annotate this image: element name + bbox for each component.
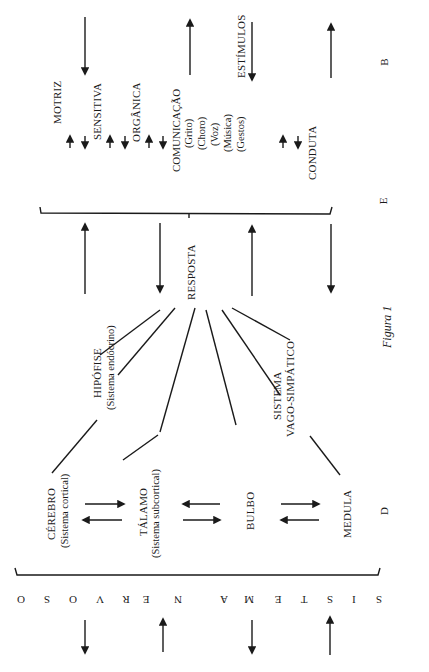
label-sensitiva: SENSITIVA	[92, 83, 103, 140]
title-letter: A	[218, 594, 230, 606]
title-letter: O	[67, 594, 79, 606]
title-letter: M	[243, 594, 255, 606]
label-motriz: MOTRIZ	[52, 81, 63, 124]
diagram-lines	[0, 0, 429, 672]
side-label-e: E	[377, 198, 389, 205]
title-letter: R	[120, 594, 132, 606]
response-label: RESPOSTA	[186, 244, 197, 300]
label-cerebro: CÉREBRO	[46, 488, 57, 540]
label-sistema: SISTEMA	[272, 372, 283, 420]
title-letter: N	[172, 594, 184, 606]
label-bulbo: BULBO	[245, 492, 256, 530]
document-page: ESTÍMULOS B MOTRIZ SENSITIVA ORGÂNICA CO…	[0, 0, 429, 672]
label-cerebro-sub: (Sistema cortical)	[60, 474, 71, 548]
title-letter: T	[298, 594, 310, 606]
comunicacao-item-musica: (Música)	[223, 114, 234, 152]
title-letter: S	[41, 594, 53, 606]
title-letter: S	[324, 594, 336, 606]
title-letter: O	[15, 594, 27, 606]
title-letter: V	[94, 594, 106, 606]
label-conduta: CONDUTA	[307, 126, 318, 180]
side-label-b: B	[378, 58, 390, 65]
title-letter: E	[140, 594, 152, 606]
title-letter: I	[348, 594, 360, 606]
label-talamo: TÁLAMO	[138, 488, 149, 536]
label-talamo-sub: (Sistema subcortical)	[151, 469, 162, 558]
label-organica: ORGÂNICA	[131, 82, 142, 142]
title-letter: E	[272, 594, 284, 606]
side-label-d: D	[378, 507, 390, 515]
comunicacao-item-gestos: (Gestos)	[236, 116, 247, 152]
stimulus-label: ESTÍMULOS	[236, 14, 247, 78]
label-medula: MEDULA	[342, 490, 353, 538]
title-letter: S	[373, 594, 385, 606]
label-hipofise-sub: (Sistema endócrino)	[106, 325, 117, 410]
figure-caption: Figura 1	[380, 306, 395, 348]
label-comunicacao: COMUNICAÇÃO	[170, 89, 183, 172]
label-hipofise: HIPÓFISE	[92, 348, 103, 398]
label-vago-simpatico: VAGO-SIMPÁTICO	[285, 341, 296, 437]
comunicacao-item-choro: (Choro)	[197, 117, 208, 150]
comunicacao-item-grito: (Grito)	[184, 119, 195, 148]
comunicacao-item-voz: (Voz)	[210, 123, 221, 146]
label-comunicacao-block: COMUNICAÇÃO	[170, 89, 183, 172]
